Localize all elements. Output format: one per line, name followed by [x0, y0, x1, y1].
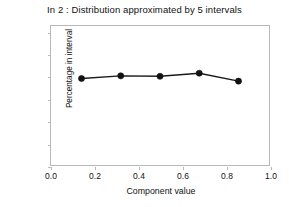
data-point	[157, 73, 163, 79]
y-tick-mark	[48, 33, 51, 34]
x-tick-label: 0.4	[124, 172, 154, 181]
data-point	[235, 78, 241, 84]
y-tick-mark	[48, 145, 51, 146]
y-tick-mark	[48, 55, 51, 56]
x-tick-label: 0.2	[80, 172, 110, 181]
chart-title: In 2 : Distribution approximated by 5 in…	[0, 4, 289, 15]
y-tick-mark	[48, 77, 51, 78]
x-tick-mark	[95, 167, 96, 170]
data-point	[196, 70, 202, 76]
y-tick-mark	[48, 122, 51, 123]
x-tick-mark	[271, 167, 272, 170]
x-axis-title: Component value	[51, 186, 271, 196]
y-tick-mark	[48, 100, 51, 101]
x-tick-label: 0.8	[212, 172, 242, 181]
data-point	[118, 73, 124, 79]
x-tick-label: 0.0	[36, 172, 66, 181]
data-plot	[51, 26, 269, 165]
plot-area: Percentage in interval Component value 0…	[50, 25, 270, 166]
x-tick-mark	[51, 167, 52, 170]
x-tick-mark	[139, 167, 140, 170]
chart-figure: In 2 : Distribution approximated by 5 in…	[0, 0, 289, 207]
data-point	[78, 75, 84, 81]
x-tick-label: 1.0	[256, 172, 286, 181]
x-tick-mark	[183, 167, 184, 170]
x-tick-mark	[227, 167, 228, 170]
x-tick-label: 0.6	[168, 172, 198, 181]
